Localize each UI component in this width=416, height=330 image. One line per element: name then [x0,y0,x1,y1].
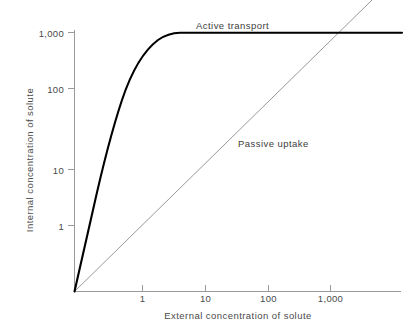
passive-uptake-line [75,0,373,292]
x-tick-label-1: 1 [140,293,146,304]
x-tick-label-100: 100 [260,293,277,304]
y-axis-title: Internal concentration of solute [24,88,35,232]
y-tick-label-1000: 1,000 [20,27,64,38]
x-axis-title: External concentration of solute [164,310,311,321]
x-tick-label-10: 10 [200,293,211,304]
x-tick-label-1000: 1,000 [318,293,343,304]
passive-uptake-label: Passive uptake [238,138,309,149]
active-transport-label: Active transport [196,20,269,31]
chart-figure: 1,000 100 10 1 1 10 100 1,000 External c… [0,0,416,330]
y-axis-ticks [68,33,75,226]
active-transport-curve [75,33,403,292]
x-axis-ticks [143,285,331,292]
